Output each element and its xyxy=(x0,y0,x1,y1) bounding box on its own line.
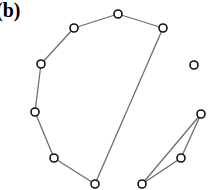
node-C xyxy=(114,10,122,18)
node-H xyxy=(91,180,99,188)
node-G xyxy=(50,154,58,162)
graph-diagram xyxy=(0,0,208,190)
edge-A-B xyxy=(41,28,74,64)
nodes-layer xyxy=(31,10,205,188)
node-K xyxy=(138,180,146,188)
edge-D-H xyxy=(95,28,163,184)
edge-J-K xyxy=(142,158,181,184)
node-A xyxy=(37,60,45,68)
node-J xyxy=(177,154,185,162)
edge-K-I xyxy=(142,114,201,184)
edge-G-H xyxy=(54,158,95,184)
edge-C-D xyxy=(118,14,163,28)
node-B xyxy=(70,24,78,32)
edge-F-G xyxy=(35,112,54,158)
node-I xyxy=(197,110,205,118)
node-E xyxy=(190,61,198,69)
edge-B-C xyxy=(74,14,118,28)
node-F xyxy=(31,108,39,116)
node-D xyxy=(159,24,167,32)
edges-layer xyxy=(35,14,201,184)
edge-A-F xyxy=(35,64,41,112)
edge-I-J xyxy=(181,114,201,158)
